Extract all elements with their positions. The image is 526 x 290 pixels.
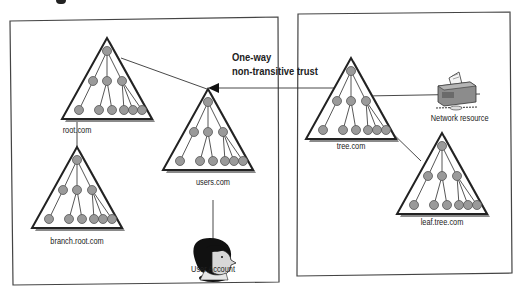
network-resource-icon: [436, 72, 478, 110]
tree-root-com: [62, 38, 155, 122]
label-network-resource: Network resource: [431, 113, 483, 123]
trust-label: One-way non-transitive trust: [232, 50, 318, 78]
user-account-icon: [193, 238, 236, 282]
trust-label-line1: One-way: [232, 50, 318, 64]
tree-branch-root-com: [32, 147, 125, 231]
right-forest-box: [297, 12, 512, 276]
label-leaf-tree-com: leaf.tree.com: [416, 217, 468, 227]
trust-label-line2: non-transitive trust: [232, 64, 318, 78]
label-users-com: users.com: [193, 177, 234, 187]
label-root-com: root.com: [61, 125, 94, 135]
label-user-account: User Account: [188, 264, 237, 274]
tree-tree-com: [306, 58, 399, 142]
tree-leaf-tree-com: [397, 133, 490, 217]
tree-users-com: [163, 89, 256, 173]
label-tree-com: tree.com: [335, 141, 368, 151]
label-branch-root-com: branch.root.com: [44, 236, 110, 246]
diagram-canvas: One-way non-transitive trust root.com br…: [0, 0, 526, 290]
